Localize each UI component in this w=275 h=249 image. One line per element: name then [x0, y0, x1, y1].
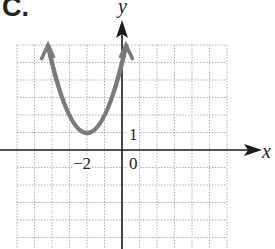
x-tick-label-neg2: −2 — [72, 155, 92, 172]
origin-label: 0 — [128, 155, 139, 172]
y-tick-label-1: 1 — [128, 126, 139, 143]
x-axis-label: x — [262, 141, 271, 161]
y-axis-label: y — [118, 0, 127, 16]
panel-label: C. — [2, 0, 29, 21]
coordinate-plane — [0, 0, 275, 249]
